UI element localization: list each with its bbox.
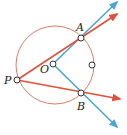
ray-PA-arrow: [17, 14, 117, 80]
point-label-a: A: [75, 21, 84, 34]
point-label-p: P: [3, 74, 12, 87]
ray-OB-arrow: [53, 64, 117, 127]
diagram-canvas: AOPB: [0, 0, 127, 135]
point-label-o: O: [40, 63, 49, 76]
point-b-marker: [78, 90, 84, 96]
point-label-b: B: [76, 100, 85, 113]
point-o-marker: [50, 61, 56, 67]
ray-PB-arrow: [17, 80, 120, 99]
geometry-diagram: AOPB: [0, 0, 127, 135]
point-p-marker: [14, 77, 20, 83]
point-unlabeled-marker: [89, 62, 95, 68]
point-a-marker: [78, 35, 84, 41]
ray-OA-arrow: [53, 2, 117, 64]
